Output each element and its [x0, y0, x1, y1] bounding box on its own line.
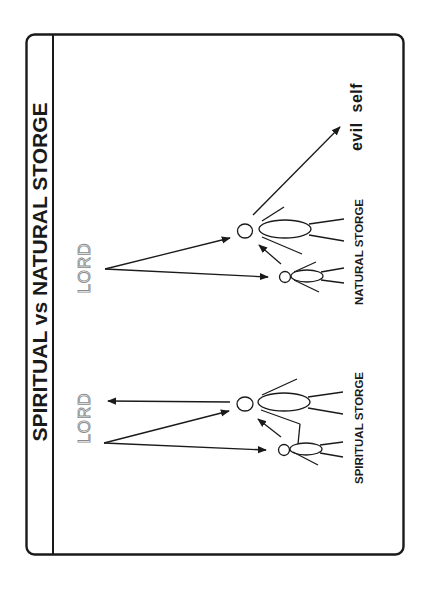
natural-storge-caption: NATURAL STORGE [353, 199, 365, 305]
spiritual-parent-figure [237, 379, 343, 444]
arrow-spiritual-parent-to-lord [108, 401, 230, 402]
holding-connector [298, 424, 300, 444]
body-icon [258, 393, 310, 411]
head-icon [280, 272, 291, 283]
arrow-lord-to-natural-parent [105, 238, 230, 269]
lord-label-spiritual: LORD [75, 392, 94, 443]
arrow-lord-to-spiritual-child [104, 443, 266, 450]
arrow-to-evil-self [253, 127, 340, 215]
slide: SPIRITUAL vs NATURAL STORGE LORD evil se… [0, 0, 429, 591]
slide-title: SPIRITUAL vs NATURAL STORGE [28, 102, 51, 441]
head-icon [238, 224, 253, 238]
spiritual-storge-caption: SPIRITUAL STORGE [353, 372, 365, 484]
evil-self-label: evil self [348, 83, 365, 151]
lord-label-natural: LORD [75, 242, 94, 293]
arrow-spiritual-child-to-parent [258, 419, 281, 437]
body-icon [259, 220, 311, 238]
spiritual-storge-group: LORD SPIRITUAL STORGE [75, 372, 365, 484]
arrow-lord-to-spiritual-parent [104, 411, 229, 443]
arrow-natural-child-to-parent [259, 245, 281, 264]
natural-child-figure [280, 262, 345, 292]
spiritual-child-figure [279, 442, 344, 465]
arrow-lord-to-natural-child [105, 269, 268, 277]
head-icon [237, 397, 253, 411]
head-icon [279, 445, 290, 456]
natural-storge-group: LORD evil self NATURAL STORGE [75, 83, 365, 305]
